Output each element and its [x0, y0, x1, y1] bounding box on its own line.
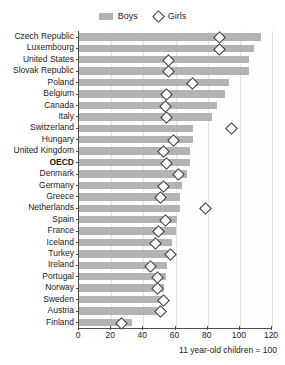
chart-row — [79, 317, 272, 328]
chart-row — [79, 122, 272, 133]
chart-root: Boys Girls Czech RepublicLuxembourgUnite… — [0, 0, 285, 365]
x-tick-mark — [271, 326, 272, 330]
category-label: Sweden — [0, 294, 74, 306]
category-label: Luxembourg — [0, 42, 74, 54]
category-label: OECD — [0, 157, 74, 169]
category-label: France — [0, 225, 74, 237]
category-label: Iceland — [0, 237, 74, 249]
chart-row — [79, 305, 272, 316]
bar-boys — [79, 45, 254, 52]
legend-label-girls: Girls — [168, 12, 187, 21]
chart-row — [79, 282, 272, 293]
chart-row — [79, 294, 272, 305]
x-axis-caption: 11 year-old children = 100 — [179, 345, 277, 355]
chart-row — [79, 111, 272, 122]
category-axis-labels: Czech RepublicLuxembourgUnited StatesSlo… — [0, 31, 74, 328]
x-tick-label: 40 — [138, 330, 147, 340]
legend-label-boys: Boys — [118, 12, 138, 21]
clipped-title — [0, 0, 285, 3]
category-label: Norway — [0, 282, 74, 294]
chart-row — [79, 77, 272, 88]
chart-row — [79, 214, 272, 225]
chart-row — [79, 134, 272, 145]
category-label: Spain — [0, 214, 74, 226]
bar-boys — [79, 250, 171, 257]
category-label: Switzerland — [0, 122, 74, 134]
bar-boys — [79, 125, 193, 132]
category-label: Belgium — [0, 88, 74, 100]
x-tick-mark — [175, 326, 176, 330]
x-tick-mark — [110, 326, 111, 330]
legend-swatch-boys — [99, 13, 113, 20]
bar-boys — [79, 113, 212, 120]
x-axis: 020406080100120 — [78, 330, 271, 342]
chart-row — [79, 225, 272, 236]
bar-boys — [79, 33, 261, 40]
category-label: Greece — [0, 191, 74, 203]
x-tick-mark — [78, 326, 79, 330]
category-label: Slovak Republic — [0, 65, 74, 77]
bar-boys — [79, 170, 187, 177]
chart-row — [79, 157, 272, 168]
category-label: Ireland — [0, 259, 74, 271]
gridline — [272, 31, 273, 328]
category-label: Netherlands — [0, 202, 74, 214]
chart-row — [79, 54, 272, 65]
x-tick-label: 60 — [170, 330, 179, 340]
bar-boys — [79, 205, 180, 212]
category-label: Hungary — [0, 134, 74, 146]
x-tick-label: 100 — [232, 330, 246, 340]
chart-row — [79, 271, 272, 282]
x-tick-mark — [142, 326, 143, 330]
chart-row — [79, 180, 272, 191]
category-label: Turkey — [0, 248, 74, 260]
category-label: Austria — [0, 305, 74, 317]
chart-row — [79, 191, 272, 202]
bar-boys — [79, 159, 190, 166]
chart-legend: Boys Girls — [0, 12, 285, 21]
chart-row — [79, 259, 272, 270]
category-label: United Kingdom — [0, 145, 74, 157]
chart-row — [79, 65, 272, 76]
category-label: Poland — [0, 77, 74, 89]
x-tick-label: 80 — [202, 330, 211, 340]
chart-row — [79, 237, 272, 248]
category-label: Italy — [0, 111, 74, 123]
chart-row — [79, 248, 272, 259]
chart-row — [79, 31, 272, 42]
category-label: United States — [0, 54, 74, 66]
chart-row — [79, 42, 272, 53]
bar-boys — [79, 296, 164, 303]
plot-area — [78, 31, 272, 329]
bar-boys — [79, 102, 217, 109]
category-label: Denmark — [0, 168, 74, 180]
bar-boys — [79, 147, 190, 154]
chart-row — [79, 88, 272, 99]
x-tick-label: 20 — [105, 330, 114, 340]
category-label: Finland — [0, 317, 74, 329]
chart-row — [79, 100, 272, 111]
category-label: Germany — [0, 180, 74, 192]
bar-boys — [79, 90, 225, 97]
x-tick-label: 0 — [76, 330, 81, 340]
legend-diamond-girls — [152, 10, 165, 23]
chart-row — [79, 202, 272, 213]
x-tick-mark — [239, 326, 240, 330]
category-label: Canada — [0, 100, 74, 112]
chart-row — [79, 168, 272, 179]
bar-boys — [79, 307, 161, 314]
category-label: Portugal — [0, 271, 74, 283]
chart-row — [79, 145, 272, 156]
legend-entry-girls: Girls — [154, 12, 187, 21]
x-tick-mark — [207, 326, 208, 330]
x-tick-label: 120 — [264, 330, 278, 340]
category-label: Czech Republic — [0, 31, 74, 43]
legend-entry-boys: Boys — [99, 12, 138, 21]
bar-boys — [79, 79, 229, 86]
